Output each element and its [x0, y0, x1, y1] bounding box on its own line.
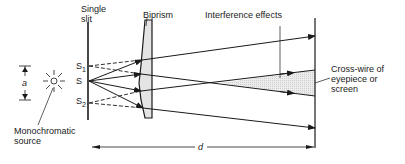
- source-label: Monochromatic source: [14, 126, 76, 146]
- biprism: [139, 20, 152, 118]
- source-icon: [43, 70, 65, 92]
- interference-region: [220, 70, 315, 96]
- biprism-label: Biprism: [143, 10, 173, 20]
- virtual-rays: [89, 60, 143, 108]
- screen-label: Cross-wire of eyepiece or screen: [331, 64, 384, 94]
- interference-label: Interference effects: [205, 10, 282, 20]
- s-label: S: [76, 76, 82, 86]
- single-slit-label: Single slit: [81, 4, 106, 24]
- s2-label: S2: [76, 96, 86, 110]
- a-label: a: [22, 78, 27, 88]
- s1-label: S1: [76, 61, 86, 75]
- d-label: d: [198, 142, 203, 152]
